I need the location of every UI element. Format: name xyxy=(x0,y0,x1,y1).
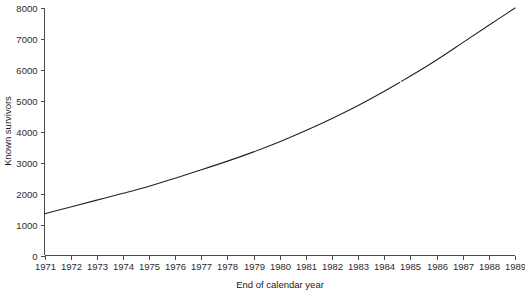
line-chart: 010002000300040005000600070008000 197119… xyxy=(0,0,525,295)
x-tick-label: 1974 xyxy=(113,261,134,272)
x-tick-label: 1982 xyxy=(322,261,343,272)
x-axis-tick-labels: 1971197219731974197519761977197819791980… xyxy=(35,261,525,272)
x-tick-label: 1977 xyxy=(191,261,212,272)
x-tick-label: 1979 xyxy=(244,261,265,272)
y-tick-label: 6000 xyxy=(16,65,37,76)
y-tick-label: 8000 xyxy=(16,3,37,14)
y-axis-tick-labels: 010002000300040005000600070008000 xyxy=(16,3,37,262)
y-tick-label: 7000 xyxy=(16,34,37,45)
x-tick-label: 1973 xyxy=(87,261,108,272)
y-tick-label: 4000 xyxy=(16,127,37,138)
x-tick-label: 1978 xyxy=(217,261,238,272)
x-axis-ticks xyxy=(46,256,516,260)
y-tick-label: 5000 xyxy=(16,96,37,107)
y-axis-ticks xyxy=(41,9,45,257)
x-tick-label: 1975 xyxy=(139,261,160,272)
x-axis-title: End of calendar year xyxy=(236,279,324,290)
x-tick-label: 1980 xyxy=(270,261,291,272)
x-tick-label: 1972 xyxy=(61,261,82,272)
x-tick-label: 1971 xyxy=(35,261,56,272)
y-tick-label: 2000 xyxy=(16,189,37,200)
chart-container: 010002000300040005000600070008000 197119… xyxy=(0,0,525,295)
x-tick-label: 1986 xyxy=(427,261,448,272)
axes xyxy=(45,8,516,256)
y-axis-title: Known survivors xyxy=(2,96,13,166)
y-tick-label: 3000 xyxy=(16,158,37,169)
x-tick-label: 1987 xyxy=(453,261,474,272)
x-tick-label: 1976 xyxy=(165,261,186,272)
x-tick-label: 1981 xyxy=(296,261,317,272)
x-tick-label: 1984 xyxy=(374,261,395,272)
x-tick-label: 1988 xyxy=(479,261,500,272)
x-tick-label: 1989 xyxy=(505,261,525,272)
x-tick-label: 1985 xyxy=(400,261,421,272)
series-group xyxy=(45,8,516,214)
series-known-survivors xyxy=(45,8,516,214)
x-tick-label: 1983 xyxy=(348,261,369,272)
y-tick-label: 1000 xyxy=(16,220,37,231)
